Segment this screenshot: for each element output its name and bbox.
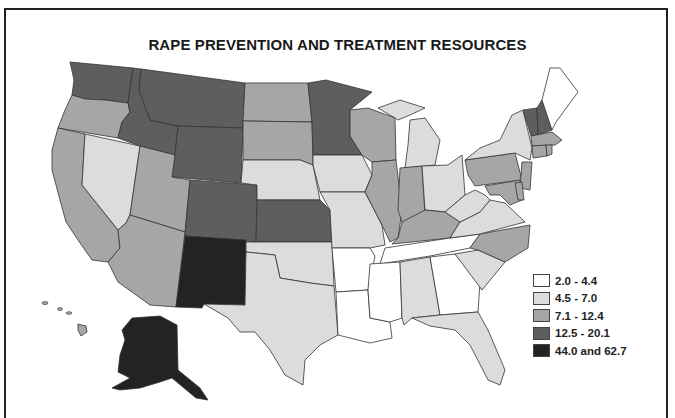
legend-item: 44.0 and 62.7 xyxy=(533,342,627,359)
state-ak xyxy=(112,316,208,400)
state-mt xyxy=(139,69,245,128)
map-legend: 2.0 - 4.4 4.5 - 7.0 7.1 - 12.4 12.5 - 20… xyxy=(533,272,627,360)
legend-label: 2.0 - 4.4 xyxy=(555,275,597,287)
legend-label: 4.5 - 7.0 xyxy=(555,292,597,304)
legend-item: 12.5 - 20.1 xyxy=(533,325,627,342)
state-fl xyxy=(412,312,505,385)
state-az xyxy=(108,215,185,307)
state-nd xyxy=(243,83,312,122)
state-co xyxy=(185,180,257,242)
state-wa xyxy=(70,62,133,103)
state-ia xyxy=(313,155,372,192)
state-sd xyxy=(243,121,313,165)
state-hi-island xyxy=(58,308,63,311)
state-wy xyxy=(172,126,243,183)
legend-item: 7.1 - 12.4 xyxy=(533,307,627,324)
state-ct xyxy=(532,145,547,158)
state-hi xyxy=(78,324,87,336)
state-ms xyxy=(368,262,402,322)
legend-label: 7.1 - 12.4 xyxy=(555,310,604,322)
legend-label: 44.0 and 62.7 xyxy=(555,345,627,357)
legend-swatch xyxy=(533,344,550,357)
legend-swatch xyxy=(533,292,550,305)
state-ny xyxy=(465,110,532,160)
state-nm xyxy=(176,236,246,308)
legend-swatch xyxy=(533,274,550,287)
legend-label: 12.5 - 20.1 xyxy=(555,327,610,339)
state-ks xyxy=(256,200,332,242)
legend-swatch xyxy=(533,309,550,322)
state-hi-island xyxy=(66,312,72,315)
state-hi-island xyxy=(42,302,48,305)
legend-item: 2.0 - 4.4 xyxy=(533,272,627,289)
state-mi-lower xyxy=(405,118,440,168)
legend-item: 4.5 - 7.0 xyxy=(533,290,627,307)
legend-swatch xyxy=(533,327,550,340)
state-ri xyxy=(546,145,552,156)
